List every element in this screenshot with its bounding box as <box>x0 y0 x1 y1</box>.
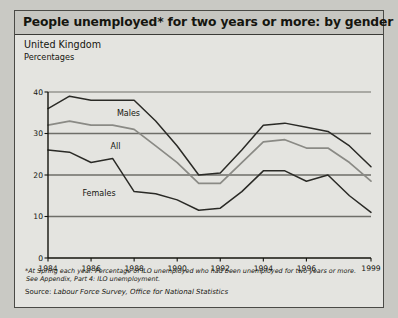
source-text: Labour Force Survey, Office for National… <box>54 288 228 296</box>
svg-text:Females: Females <box>82 189 115 198</box>
gridlines <box>48 92 371 217</box>
svg-text:All: All <box>110 142 120 151</box>
source-note: Source: Labour Force Survey, Office for … <box>25 288 228 296</box>
series-annotations: MalesAllFemales <box>82 109 140 198</box>
source-label: Source: <box>25 288 54 296</box>
svg-text:0: 0 <box>38 254 43 263</box>
svg-text:10: 10 <box>33 212 43 221</box>
footnote-line-2: See Appendix, Part 4: ILO unemployment. <box>26 275 160 284</box>
svg-text:Males: Males <box>117 109 140 118</box>
chart-figure: People unemployed* for two years or more… <box>14 10 384 308</box>
svg-text:40: 40 <box>33 88 43 97</box>
svg-text:30: 30 <box>33 129 43 138</box>
svg-text:20: 20 <box>33 171 43 180</box>
line-chart-svg: 010203040 198419861988199019921994199619… <box>15 11 385 309</box>
svg-text:1999: 1999 <box>361 264 380 273</box>
y-axis-ticks: 010203040 <box>33 88 48 263</box>
plot-area: 010203040 198419861988199019921994199619… <box>15 11 385 309</box>
